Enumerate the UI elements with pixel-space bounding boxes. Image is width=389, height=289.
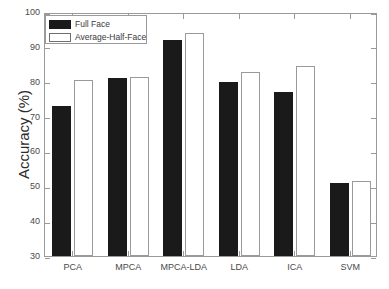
y-tick-mark (45, 258, 50, 259)
legend-label: Average-Half-Face (75, 32, 146, 42)
y-tick-mark (45, 153, 50, 154)
x-tick-mark (350, 251, 351, 256)
y-tick-label: 30 (30, 251, 40, 261)
y-tick-mark-right (371, 118, 376, 119)
y-tick-mark-right (371, 188, 376, 189)
x-tick-mark (128, 251, 129, 256)
bar-lda-full-face (219, 82, 238, 256)
y-tick-mark-right (371, 83, 376, 84)
legend-label: Full Face (75, 19, 110, 29)
y-tick-mark-right (371, 14, 376, 15)
legend-swatch (49, 20, 71, 29)
x-tick-label: PCA (63, 262, 82, 272)
y-tick-mark (45, 48, 50, 49)
x-tick-label: LDA (230, 262, 248, 272)
x-tick-mark (72, 251, 73, 256)
y-tick-mark-right (371, 223, 376, 224)
y-tick-label: 100 (25, 7, 40, 17)
y-axis-title: Accuracy (%) (15, 65, 32, 205)
y-tick-label: 60 (30, 146, 40, 156)
x-tick-label: ICA (287, 262, 302, 272)
y-tick-mark-right (371, 258, 376, 259)
bar-chart-figure: Accuracy (%) 30405060708090100 PCAMPCAMP… (0, 0, 389, 289)
legend-swatch (49, 33, 71, 42)
plot-area: 30405060708090100 PCAMPCAMPCA-LDALDAICAS… (44, 13, 377, 257)
y-tick-label: 90 (30, 42, 40, 52)
chart-legend: Full FaceAverage-Half-Face (45, 15, 147, 44)
bar-mpca-full-face (108, 78, 127, 256)
x-tick-label: MPCA-LDA (160, 262, 207, 272)
x-tick-mark (294, 251, 295, 256)
x-tick-mark-top (183, 14, 184, 19)
x-tick-label: MPCA (115, 262, 141, 272)
y-tick-label: 40 (30, 216, 40, 226)
legend-entry-average-half-face: Average-Half-Face (49, 31, 143, 43)
y-tick-mark-right (371, 48, 376, 49)
bar-pca-full-face (52, 106, 71, 256)
y-tick-label: 50 (30, 181, 40, 191)
legend-entry-full-face: Full Face (49, 18, 143, 30)
bar-pca-average-half-face (74, 80, 93, 256)
y-tick-mark (45, 83, 50, 84)
bar-svm-average-half-face (352, 181, 371, 256)
x-tick-mark-top (294, 14, 295, 19)
y-tick-mark (45, 223, 50, 224)
bar-mpca-lda-full-face (163, 40, 182, 256)
y-tick-mark-right (371, 153, 376, 154)
bar-ica-full-face (274, 92, 293, 256)
x-tick-mark-top (239, 14, 240, 19)
x-tick-label: SVM (340, 262, 360, 272)
bar-mpca-lda-average-half-face (185, 33, 204, 256)
y-tick-label: 70 (30, 112, 40, 122)
x-tick-mark (183, 251, 184, 256)
y-tick-mark (45, 188, 50, 189)
x-tick-mark-top (350, 14, 351, 19)
x-tick-mark (239, 251, 240, 256)
bar-ica-average-half-face (296, 66, 315, 256)
bar-lda-average-half-face (241, 72, 260, 256)
bar-mpca-average-half-face (130, 77, 149, 256)
bar-svm-full-face (330, 183, 349, 256)
y-tick-label: 80 (30, 77, 40, 87)
y-tick-mark (45, 118, 50, 119)
